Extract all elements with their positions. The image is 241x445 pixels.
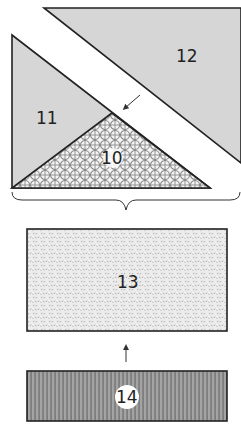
piece-13-label: 13 [117,272,139,292]
piece-14: 14 [27,371,227,421]
grouping-brace [12,192,240,210]
assembly-diagram: 12 11 10 13 14 [0,0,241,445]
piece-14-label: 14 [116,387,138,407]
piece-12-label: 12 [176,46,198,66]
piece-11-label: 11 [36,108,58,128]
arrow-down-left-icon [125,95,140,108]
piece-10-label: 10 [101,148,123,168]
piece-13: 13 [27,229,227,331]
